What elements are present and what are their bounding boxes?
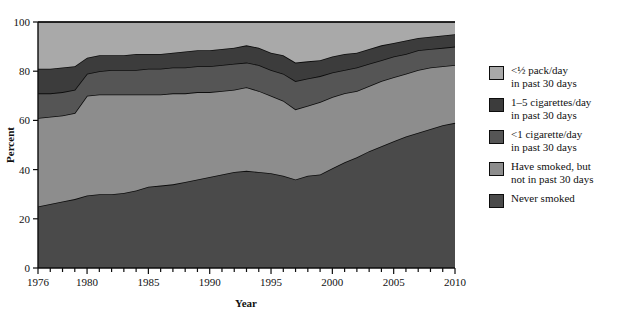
x-tick-label: 1976	[27, 276, 50, 288]
legend-swatch	[489, 162, 504, 176]
legend-item: Have smoked, but not in past 30 days	[489, 160, 628, 185]
legend-swatch	[489, 98, 504, 112]
chart-figure: 19761980198519901995200020052010 0204060…	[0, 0, 628, 314]
legend-label: <½ pack/day in past 30 days	[511, 64, 577, 89]
y-tick-label: 60	[19, 114, 31, 126]
x-tick-label: 1995	[260, 276, 283, 288]
y-tick-label: 40	[19, 164, 31, 176]
legend-item: Never smoked	[489, 192, 628, 208]
legend-item: <½ pack/day in past 30 days	[489, 64, 628, 89]
chart-legend: <½ pack/day in past 30 days1–5 cigarette…	[489, 64, 628, 215]
x-tick-label: 2000	[321, 276, 344, 288]
x-axis: 19761980198519901995200020052010	[27, 268, 467, 288]
x-tick-label: 2010	[444, 276, 467, 288]
y-tick-label: 20	[19, 213, 31, 225]
x-tick-label: 2005	[383, 276, 406, 288]
legend-label: 1–5 cigarettes/day in past 30 days	[511, 96, 591, 121]
y-tick-label: 100	[14, 16, 31, 28]
x-tick-label: 1980	[76, 276, 99, 288]
legend-item: <1 cigarette/day in past 30 days	[489, 128, 628, 153]
legend-swatch	[489, 130, 504, 144]
y-axis: 020406080100	[14, 16, 39, 274]
legend-label: Have smoked, but not in past 30 days	[511, 160, 594, 185]
legend-label: Never smoked	[511, 192, 575, 205]
legend-item: 1–5 cigarettes/day in past 30 days	[489, 96, 628, 121]
x-axis-title: Year	[235, 297, 257, 309]
legend-label: <1 cigarette/day in past 30 days	[511, 128, 582, 153]
y-axis-title: Percent	[4, 127, 16, 163]
y-tick-label: 0	[25, 262, 31, 274]
legend-swatch	[489, 66, 504, 80]
x-tick-label: 1990	[199, 276, 222, 288]
legend-swatch	[489, 194, 504, 208]
y-tick-label: 80	[19, 65, 31, 77]
plot-areas	[38, 22, 455, 268]
x-tick-label: 1985	[137, 276, 160, 288]
